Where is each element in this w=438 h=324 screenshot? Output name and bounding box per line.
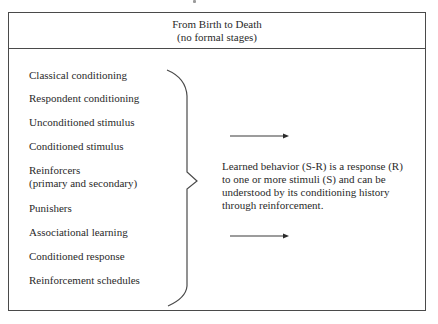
- right-arrow-icon: [230, 134, 289, 139]
- description-line: to one or more stimuli (S) and can be: [222, 173, 412, 186]
- right-curly-brace-icon: [167, 70, 197, 306]
- description-line: Learned behavior (S-R) is a response (R): [222, 160, 412, 173]
- description-text: Learned behavior (S-R) is a response (R)…: [222, 160, 412, 212]
- description-line: understood by its conditioning history: [222, 186, 412, 199]
- right-arrow-icon: [230, 234, 289, 239]
- description-line: through reinforcement.: [222, 199, 412, 212]
